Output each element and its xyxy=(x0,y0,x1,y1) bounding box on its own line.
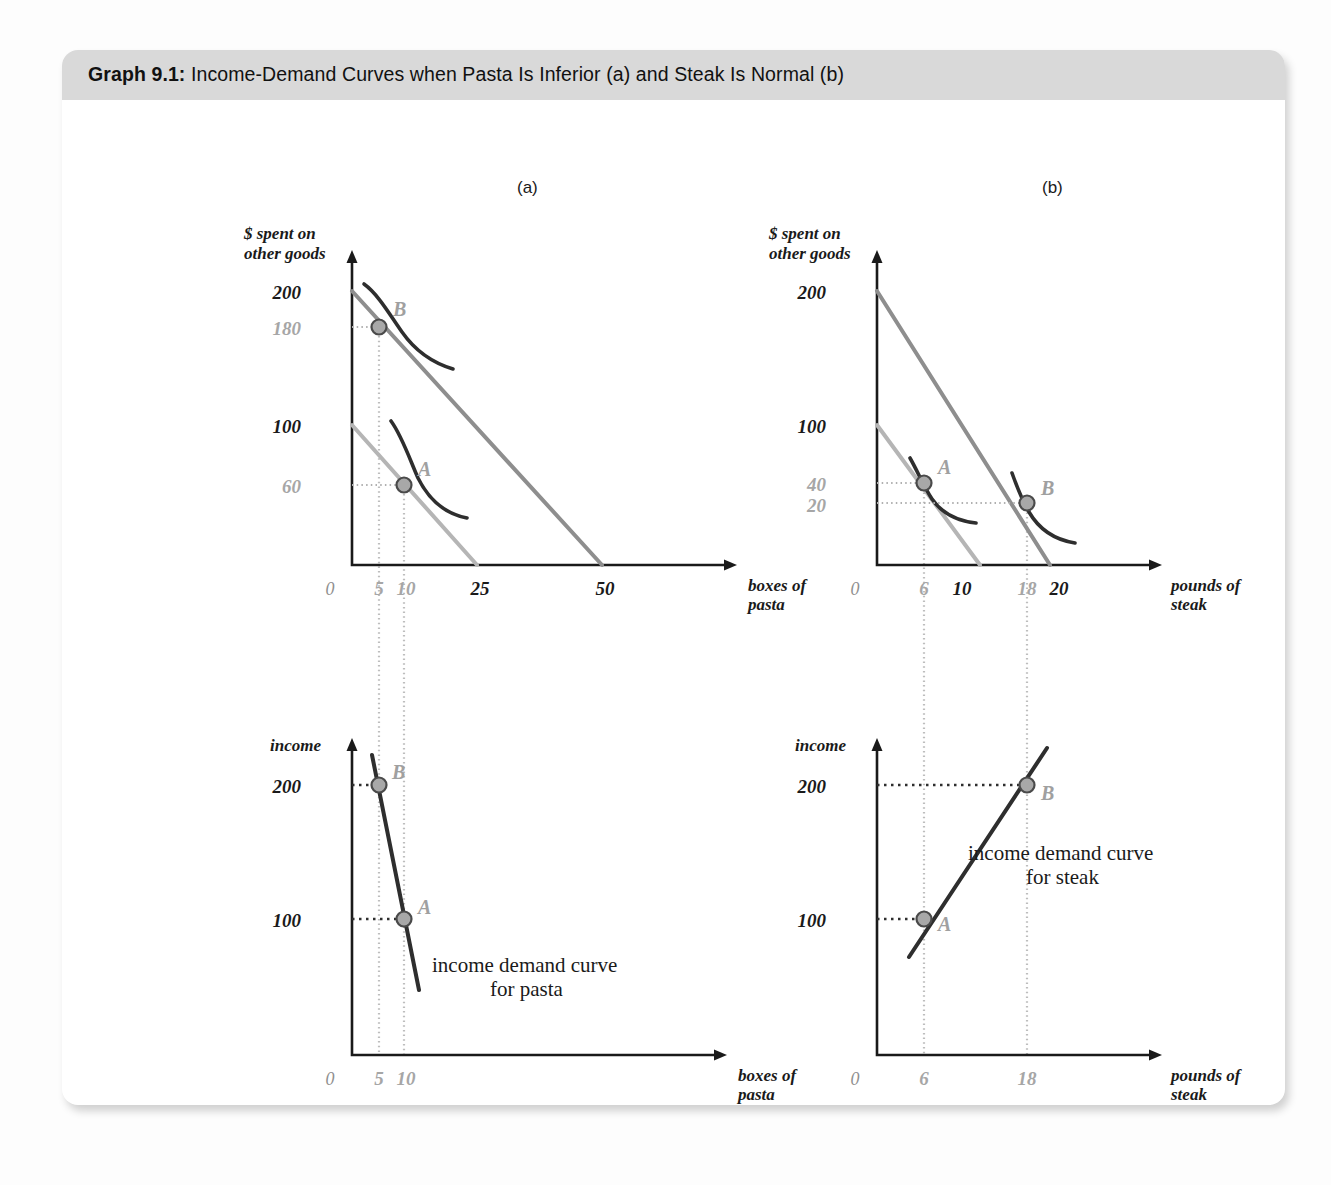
y-axis-title-b-bottom: income xyxy=(795,736,846,755)
xtick-0-b-bottom: 0 xyxy=(851,1069,860,1089)
figure-number: Graph 9.1: xyxy=(88,63,185,85)
x-axis-title-a-bottom-line2: pasta xyxy=(736,1085,775,1104)
data-point-a-a-bottom xyxy=(397,912,412,927)
data-point-b-a-bottom xyxy=(372,778,387,793)
ytick-100-b-bottom: 100 xyxy=(798,910,827,931)
xtick-5-a-top: 5 xyxy=(374,578,384,599)
ytick-40-b-top: 40 xyxy=(806,474,827,495)
budget-line-low-a xyxy=(352,425,477,565)
ytick-200-a-bottom: 200 xyxy=(272,776,302,797)
y-axis-title-a-bottom: income xyxy=(270,736,321,755)
ytick-100-a-top: 100 xyxy=(273,416,302,437)
panel-a-top-plot: B A $ spent on other goods 200 180 100 6… xyxy=(243,224,808,1055)
xtick-6-b-top: 6 xyxy=(919,578,929,599)
panel-a-bottom-axes xyxy=(352,745,720,1055)
annotation-steak-line2: for steak xyxy=(1026,865,1099,889)
panel-b-top-axes xyxy=(877,257,1155,565)
ytick-200-b-top: 200 xyxy=(797,282,827,303)
figure-title: Graph 9.1: Income-Demand Curves when Pas… xyxy=(88,63,844,86)
budget-line-high-a xyxy=(352,291,602,565)
data-point-a-b-top xyxy=(917,476,932,491)
panel-a-top-axes xyxy=(352,257,730,565)
figure-plots: B A $ spent on other goods 200 180 100 6… xyxy=(150,100,1200,1100)
xtick-6-b-bottom: 6 xyxy=(919,1068,929,1089)
point-label-b-b-top: B xyxy=(1040,477,1054,499)
ytick-20-b-top: 20 xyxy=(806,495,827,516)
panel-b-top-plot: A B $ spent on other goods 200 100 40 20… xyxy=(768,224,1243,1055)
x-axis-title-a-top-line2: pasta xyxy=(746,595,785,614)
point-label-a-b-top: A xyxy=(936,456,951,478)
x-axis-title-b-top-line1: pounds of xyxy=(1169,576,1243,595)
xtick-10-a-top: 10 xyxy=(397,578,417,599)
y-axis-arrow-b-top xyxy=(872,250,883,263)
data-point-a-b-bottom xyxy=(917,912,932,927)
ytick-200-b-bottom: 200 xyxy=(797,776,827,797)
xtick-0-a-bottom: 0 xyxy=(326,1069,335,1089)
point-label-b-a-bottom: B xyxy=(391,761,405,783)
ytick-200-a-top: 200 xyxy=(272,282,302,303)
ytick-100-b-top: 100 xyxy=(798,416,827,437)
x-axis-title-a-bottom-line1: boxes of xyxy=(738,1066,798,1085)
xtick-10-b-top: 10 xyxy=(953,578,973,599)
x-axis-title-b-bottom-line1: pounds of xyxy=(1169,1066,1243,1085)
xtick-5-a-bottom: 5 xyxy=(374,1068,384,1089)
y-axis-arrow-b-bottom xyxy=(872,738,883,751)
xtick-25-a-top: 25 xyxy=(470,578,491,599)
x-axis-arrow-a-bottom xyxy=(714,1050,727,1061)
budget-line-high-b xyxy=(877,291,1050,565)
y-axis-title-a-top-line2: other goods xyxy=(244,244,326,263)
y-axis-title-b-top-line1: $ spent on xyxy=(768,224,841,243)
x-axis-arrow-a-top xyxy=(724,560,737,571)
y-axis-title-b-top-line2: other goods xyxy=(769,244,851,263)
xtick-18-b-bottom: 18 xyxy=(1018,1068,1038,1089)
annotation-pasta-line1: income demand curve xyxy=(432,953,617,977)
x-axis-arrow-b-bottom xyxy=(1149,1050,1162,1061)
xtick-50-a-top: 50 xyxy=(596,578,616,599)
xtick-20-b-top: 20 xyxy=(1049,578,1070,599)
x-axis-title-b-bottom-line2: steak xyxy=(1170,1085,1207,1104)
data-point-a-a-top xyxy=(397,478,412,493)
ytick-60-a-top: 60 xyxy=(282,476,302,497)
annotation-steak-line1: income demand curve xyxy=(968,841,1153,865)
x-axis-title-b-top-line2: steak xyxy=(1170,595,1207,614)
data-point-b-b-bottom xyxy=(1020,778,1035,793)
xtick-10-a-bottom: 10 xyxy=(397,1068,417,1089)
point-label-a-a-bottom: A xyxy=(416,896,431,918)
point-label-a-b-bottom: A xyxy=(936,913,951,935)
xtick-0-a-top: 0 xyxy=(326,579,335,599)
point-label-b-b-bottom: B xyxy=(1040,782,1054,804)
ytick-180-a-top: 180 xyxy=(273,318,302,339)
point-label-a-a-top: A xyxy=(416,458,431,480)
x-axis-arrow-b-top xyxy=(1149,560,1162,571)
xtick-0-b-top: 0 xyxy=(851,579,860,599)
figure-title-text: Income-Demand Curves when Pasta Is Infer… xyxy=(191,63,844,85)
y-axis-title-a-top-line1: $ spent on xyxy=(243,224,316,243)
panel-a-bottom-plot: B A income 200 100 0 5 10 income demand … xyxy=(270,736,798,1104)
point-label-b-a-top: B xyxy=(392,298,406,320)
panel-b-bottom-plot: A B income 200 100 0 6 18 income demand … xyxy=(795,736,1243,1104)
figure-card: Graph 9.1: Income-Demand Curves when Pas… xyxy=(62,50,1285,1105)
figure-body: (a) (b) xyxy=(150,100,1200,1100)
y-axis-arrow-a-top xyxy=(347,250,358,263)
xtick-18-b-top: 18 xyxy=(1018,578,1038,599)
y-axis-arrow-a-bottom xyxy=(347,738,358,751)
data-point-b-a-top xyxy=(372,320,387,335)
annotation-pasta-line2: for pasta xyxy=(490,977,564,1001)
x-axis-title-a-top-line1: boxes of xyxy=(748,576,808,595)
data-point-b-b-top xyxy=(1020,496,1035,511)
ytick-100-a-bottom: 100 xyxy=(273,910,302,931)
